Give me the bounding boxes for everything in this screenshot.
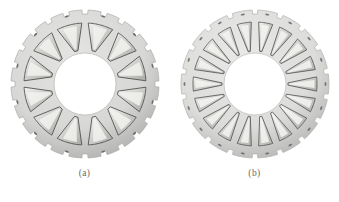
- figure-panel-a: (a): [0, 0, 169, 202]
- stator-bore: [224, 53, 286, 115]
- stator-lamination-b: [175, 0, 335, 168]
- figure-caption-b: (b): [248, 169, 260, 179]
- stator-bore: [54, 53, 116, 115]
- rivet-hole: [183, 82, 185, 86]
- figure-panel-b: (b): [170, 0, 339, 202]
- stator-diagram-a: [5, 0, 165, 168]
- figure-board: (a) (b): [0, 0, 339, 202]
- stator-diagram-b: [175, 0, 335, 168]
- stator-lamination-a: [5, 0, 165, 168]
- figure-caption-a: (a): [79, 169, 91, 179]
- rivet-hole: [324, 82, 326, 86]
